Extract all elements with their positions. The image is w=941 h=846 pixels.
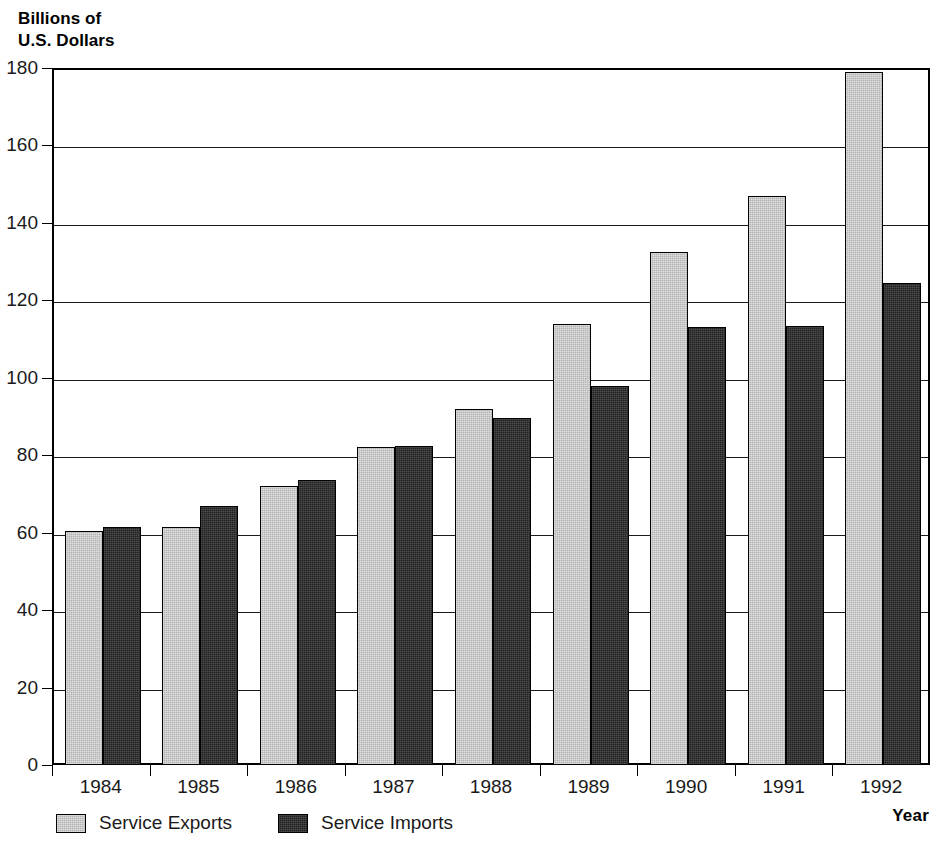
x-axis-label-1990: 1990 — [641, 776, 731, 798]
gridline — [54, 457, 928, 458]
gridline — [54, 302, 928, 303]
x-axis-label-1984: 1984 — [56, 776, 146, 798]
y-axis-label: 40 — [0, 600, 38, 619]
y-axis-label: 160 — [0, 135, 38, 154]
x-axis-tick — [150, 765, 151, 776]
legend-item-service-imports: Service Imports — [278, 812, 453, 834]
y-axis-tick — [42, 533, 52, 534]
y-axis-label: 20 — [0, 678, 38, 697]
x-axis-tick — [442, 765, 443, 776]
y-axis-label: 140 — [0, 213, 38, 232]
y-axis-tick — [42, 145, 52, 146]
y-axis-title: Billions ofU.S. Dollars — [18, 8, 115, 53]
y-axis-tick — [42, 68, 52, 69]
x-axis-tick — [735, 765, 736, 776]
gridline — [54, 612, 928, 613]
gridline — [54, 225, 928, 226]
x-axis-label-1992: 1992 — [836, 776, 926, 798]
y-axis-label: 0 — [0, 755, 38, 774]
chart-legend: Service ExportsService Imports — [56, 812, 453, 834]
legend-swatch-icon — [278, 814, 308, 833]
legend-item-service-exports: Service Exports — [56, 812, 232, 834]
y-axis-tick — [42, 300, 52, 301]
x-axis-label-1987: 1987 — [348, 776, 438, 798]
bar-chart: Billions ofU.S. Dollars 0204060801001201… — [0, 0, 941, 846]
y-axis-label: 60 — [0, 523, 38, 542]
x-axis-tick — [637, 765, 638, 776]
y-axis-tick — [42, 378, 52, 379]
gridline — [54, 380, 928, 381]
y-axis-title-line2: U.S. Dollars — [18, 31, 115, 50]
legend-swatch-icon — [56, 814, 86, 833]
y-axis-tick — [42, 455, 52, 456]
x-axis-label-1985: 1985 — [153, 776, 243, 798]
x-axis-tick — [247, 765, 248, 776]
y-axis-tick — [42, 610, 52, 611]
plot-area — [52, 68, 930, 765]
legend-label: Service Exports — [99, 812, 232, 834]
gridline — [54, 147, 928, 148]
y-axis-title-line1: Billions of — [18, 9, 101, 28]
gridline — [54, 535, 928, 536]
x-axis-title: Year — [892, 806, 929, 826]
y-axis-label: 120 — [0, 290, 38, 309]
x-axis-label-1991: 1991 — [739, 776, 829, 798]
x-axis-label-1989: 1989 — [544, 776, 634, 798]
y-axis-tick — [42, 688, 52, 689]
x-axis-label-1986: 1986 — [251, 776, 341, 798]
y-axis-tick — [42, 223, 52, 224]
x-axis-tick — [345, 765, 346, 776]
y-axis-tick — [42, 765, 52, 766]
x-axis-tick — [52, 765, 53, 776]
x-axis-label-1988: 1988 — [446, 776, 536, 798]
x-axis-tick — [832, 765, 833, 776]
legend-label: Service Imports — [321, 812, 453, 834]
y-axis-label: 180 — [0, 58, 38, 77]
gridline — [54, 690, 928, 691]
x-axis-tick — [540, 765, 541, 776]
y-axis-label: 80 — [0, 445, 38, 464]
y-axis-label: 100 — [0, 368, 38, 387]
